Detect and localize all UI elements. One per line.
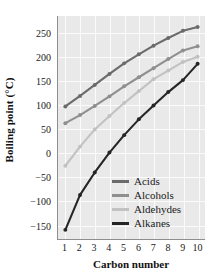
x-tick-label: 8 — [166, 242, 171, 253]
data-point — [93, 104, 97, 108]
legend-swatch-aldehydes — [112, 208, 129, 211]
data-point — [107, 94, 111, 98]
data-point — [196, 62, 200, 66]
series-alcohols — [63, 44, 199, 125]
data-point — [93, 83, 97, 87]
y-axis-tick-labels: 250200150100500−50−100−150 — [16, 22, 54, 240]
data-point — [152, 44, 156, 48]
y-tick-label: 100 — [36, 100, 51, 111]
x-axis-label: Carbon number — [57, 258, 205, 270]
legend-item-alcohols: Alcohols — [112, 188, 204, 202]
data-point — [93, 127, 97, 131]
series-aldehydes — [63, 55, 199, 168]
boiling-point-line-chart: Boiling point (°C) 250200150100500−50−10… — [0, 0, 211, 279]
data-point — [63, 228, 67, 232]
data-point — [166, 90, 170, 94]
legend-item-acids: Acids — [112, 174, 204, 188]
x-tick-label: 6 — [136, 242, 141, 253]
legend-swatch-acids — [112, 180, 129, 183]
data-point — [63, 104, 67, 108]
legend: AcidsAlcoholsAldehydesAlkanes — [112, 174, 204, 230]
x-tick-label: 7 — [151, 242, 156, 253]
data-point — [107, 114, 111, 118]
data-point — [181, 48, 185, 52]
y-axis-label: Boiling point (°C) — [3, 77, 15, 162]
data-point — [107, 151, 111, 155]
x-tick-label: 3 — [92, 242, 97, 253]
data-point — [166, 69, 170, 73]
y-tick-label: −150 — [30, 220, 51, 231]
data-point — [166, 36, 170, 40]
legend-label: Acids — [134, 176, 160, 187]
data-point — [181, 29, 185, 33]
data-point — [122, 61, 126, 65]
data-point — [137, 117, 141, 121]
data-point — [93, 170, 97, 174]
data-point — [152, 103, 156, 107]
x-axis-tick-labels: 12345678910 — [57, 242, 205, 256]
data-point — [122, 133, 126, 137]
y-tick-label: 50 — [41, 124, 51, 135]
data-point — [181, 78, 185, 82]
legend-swatch-alkanes — [112, 222, 129, 225]
y-tick-label: 0 — [46, 148, 51, 159]
data-point — [181, 60, 185, 64]
legend-label: Aldehydes — [134, 204, 181, 215]
data-point — [137, 52, 141, 56]
x-tick-label: 1 — [62, 242, 67, 253]
x-tick-label: 4 — [106, 242, 111, 253]
legend-swatch-alcohols — [112, 194, 129, 197]
data-point — [78, 193, 82, 197]
data-point — [122, 101, 126, 105]
data-point — [78, 94, 82, 98]
data-point — [152, 66, 156, 70]
data-point — [122, 84, 126, 88]
legend-item-aldehydes: Aldehydes — [112, 202, 204, 216]
y-tick-label: 250 — [36, 27, 51, 38]
data-point — [196, 44, 200, 48]
x-tick-label: 5 — [121, 242, 126, 253]
data-point — [107, 72, 111, 76]
data-point — [152, 77, 156, 81]
y-tick-label: 150 — [36, 76, 51, 87]
legend-label: Alkanes — [134, 218, 170, 229]
data-point — [63, 164, 67, 168]
legend-label: Alcohols — [134, 190, 174, 201]
y-tick-label: 200 — [36, 51, 51, 62]
data-point — [78, 145, 82, 149]
data-point — [137, 89, 141, 93]
x-tick-label: 2 — [77, 242, 82, 253]
data-point — [196, 55, 200, 59]
y-tick-label: −100 — [30, 196, 51, 207]
legend-item-alkanes: Alkanes — [112, 216, 204, 230]
series-line — [65, 27, 197, 106]
x-tick-label: 10 — [193, 242, 203, 253]
y-tick-label: −50 — [35, 172, 51, 183]
data-point — [166, 57, 170, 61]
data-point — [78, 113, 82, 117]
data-point — [137, 75, 141, 79]
data-point — [63, 121, 67, 125]
x-tick-label: 9 — [180, 242, 185, 253]
data-point — [196, 25, 200, 29]
